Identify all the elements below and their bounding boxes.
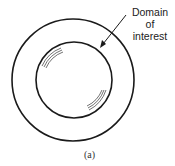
highlight-arcs-upper	[42, 48, 63, 68]
inner-circle	[36, 42, 112, 118]
highlight-arcs-lower	[87, 90, 106, 110]
label-line-2: of	[125, 18, 175, 30]
domain-of-interest-label: Domain of interest	[125, 6, 175, 42]
outer-circle	[12, 19, 134, 141]
label-line-3: interest	[125, 30, 175, 42]
figure-caption: (a)	[84, 149, 95, 160]
label-line-1: Domain	[125, 6, 175, 18]
